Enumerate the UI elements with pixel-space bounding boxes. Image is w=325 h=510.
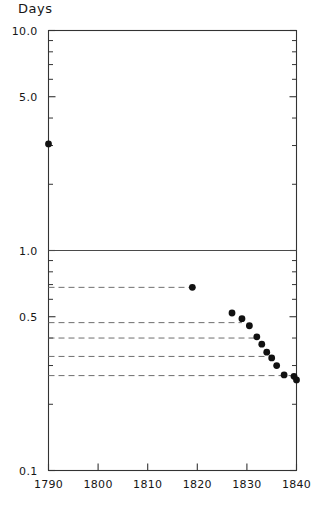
x-axis-ticks [49,464,297,471]
y-tick-label: 0.5 [0,310,38,323]
y-tick-label: 10.0 [0,24,38,37]
chart-canvas [0,0,325,510]
data-point [258,341,265,348]
data-points [45,141,300,384]
x-tick-label: 1800 [74,478,122,491]
data-point [253,333,260,340]
data-point [45,141,52,148]
dashed-reference-lines [49,287,297,375]
data-point [293,377,300,384]
data-point [229,310,236,317]
data-point [281,371,288,378]
x-tick-label: 1840 [273,478,321,491]
y-tick-label: 5.0 [0,90,38,103]
data-point [273,362,280,369]
x-tick-label: 1830 [223,478,271,491]
data-point [246,322,253,329]
data-point [263,349,270,356]
y-tick-label: 1.0 [0,244,38,257]
data-point [268,354,275,361]
data-point [239,315,246,322]
data-point [189,284,196,291]
x-tick-label: 1790 [25,478,73,491]
plot-area: 10.05.01.00.50.1 17901800181018201830184… [0,0,325,510]
x-tick-label: 1820 [173,478,221,491]
figure-caption [2,499,323,510]
y-tick-label: 0.1 [0,464,38,477]
x-tick-label: 1810 [124,478,172,491]
figure: Days 10.05.01.00.50.1 179018001810182018… [0,0,325,510]
